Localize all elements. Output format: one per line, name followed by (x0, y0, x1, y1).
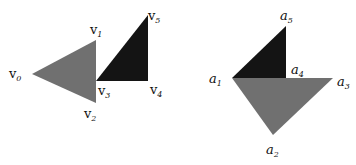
vertex-label-v1: v1 (89, 22, 102, 39)
vertex-label-a5: a5 (280, 8, 293, 25)
gray-triangle-v0-v1-v2 (32, 40, 96, 103)
vertex-label-v3: v3 (97, 83, 110, 100)
dark-triangle-a1-a4-a5 (232, 26, 286, 78)
gray-triangle-a1-a3-a2 (232, 78, 333, 135)
vertex-label-v2: v2 (83, 106, 96, 123)
vertex-label-a3: a3 (337, 74, 350, 91)
triangle-diagram: v0v1v2v3v4v5 a5a4a1a3a2 (0, 0, 356, 165)
vertex-label-v0: v0 (8, 66, 21, 83)
dark-triangle-v3-v4-v5 (96, 15, 148, 81)
vertex-label-a4: a4 (291, 62, 304, 79)
vertex-label-a1: a1 (209, 71, 222, 88)
vertex-label-a2: a2 (266, 142, 279, 159)
vertex-label-v5: v5 (147, 8, 160, 25)
vertex-label-v4: v4 (149, 82, 162, 99)
